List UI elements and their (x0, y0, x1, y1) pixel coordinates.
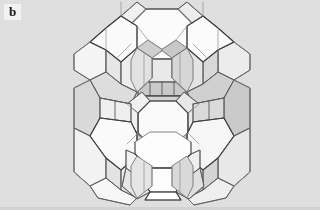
zeolite-structure-figure (0, 0, 320, 210)
figure-panel: b (0, 0, 320, 210)
panel-label-b: b (4, 4, 21, 20)
